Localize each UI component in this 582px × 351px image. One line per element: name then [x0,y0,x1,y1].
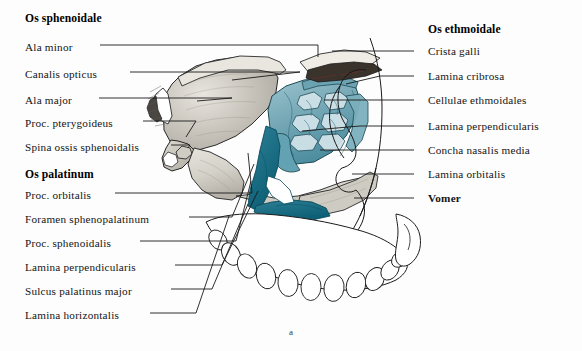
label-crista-galli: Crista galli [428,45,480,57]
palatine-bone [236,172,378,216]
label-proc-pterygoideus: Proc. pterygoideus [25,117,113,129]
label-concha-nasalis-media: Concha nasalis media [428,144,530,156]
figure-caption: a [289,327,293,337]
label-vomer: Vomer [428,192,461,204]
label-lamina-perpendicularis-palatine: Lamina perpendicularis [25,261,136,273]
ethmoid-bone [248,58,368,220]
label-lamina-orbitalis: Lamina orbitalis [428,168,505,180]
label-spina-ossis-sphenoidalis: Spina ossis sphenoidalis [25,141,139,153]
sphenoid-bone [147,56,286,200]
label-lamina-horizontalis: Lamina horizontalis [25,309,119,321]
group-header-os-sphenoidale: Os sphenoidale [25,12,102,25]
label-lamina-cribrosa: Lamina cribrosa [428,70,504,82]
label-proc-orbitalis: Proc. orbitalis [25,189,91,201]
anatomical-plate: Os sphenoidale Ala minor Canalis opticus… [0,0,582,351]
label-proc-sphenoidalis: Proc. sphenoidalis [25,237,111,249]
label-ala-major: Ala major [25,94,72,106]
group-header-os-ethmoidale: Os ethmoidale [428,23,501,36]
label-canalis-opticus: Canalis opticus [25,68,97,80]
label-foramen-sphenopalatinum: Foramen sphenopalatinum [25,213,149,225]
label-ala-minor: Ala minor [25,41,73,53]
sphenoid-ethmoid-junction [300,50,382,82]
maxillary-tuberosity [395,214,420,266]
label-cellulae-ethmoidales: Cellulae ethmoidales [428,94,527,106]
label-sulcus-palatinus-major: Sulcus palatinus major [25,285,132,297]
dental-arch [205,214,412,303]
facial-profile-outline [329,38,382,262]
label-lamina-perpendicularis-ethmoid: Lamina perpendicularis [428,120,539,132]
group-header-os-palatinum: Os palatinum [25,168,94,181]
